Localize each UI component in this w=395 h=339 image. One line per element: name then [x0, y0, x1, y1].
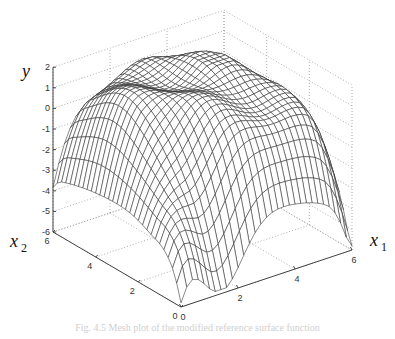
x2-tick-label: 4 [87, 261, 92, 271]
x1-axis-label: x 1 [369, 230, 387, 254]
figure-caption: Fig. 4.5 Mesh plot of the modified refer… [0, 322, 395, 333]
y-tick-label: -4 [42, 186, 50, 196]
y-tick-label: 1 [45, 83, 50, 93]
y-axis-label: y [20, 61, 30, 81]
x1-tick-label: 4 [294, 274, 299, 284]
y-tick-label: -1 [42, 124, 50, 134]
x1-tick-label: 2 [237, 293, 242, 303]
y-tick-label: 2 [45, 62, 50, 72]
x1-axis-label-base: x [369, 230, 378, 250]
surface-plot: 210-1-2-3-4-5-602460246 y x 2 x 1 [0, 0, 395, 339]
x1-axis-label-sub: 1 [381, 240, 387, 254]
x2-axis-label: x 2 [9, 231, 27, 255]
y-tick-label: -3 [42, 165, 50, 175]
y-tick-label: -2 [42, 145, 50, 155]
x1-tick-label: 6 [351, 255, 356, 265]
x2-tick-label: 0 [172, 311, 177, 321]
y-tick-label: 0 [45, 103, 50, 113]
x2-tick-label: 6 [44, 236, 49, 246]
x2-axis-label-base: x [9, 231, 18, 251]
x2-axis-label-sub: 2 [21, 241, 27, 255]
x2-tick-label: 2 [130, 286, 135, 296]
y-tick-label: -5 [42, 206, 50, 216]
x1-tick-label: 0 [180, 312, 185, 322]
